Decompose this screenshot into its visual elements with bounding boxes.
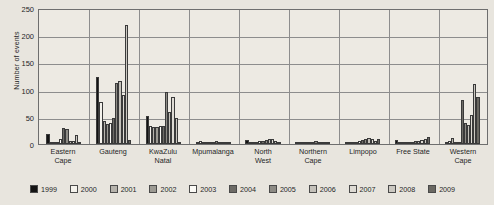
bar-group: [89, 10, 139, 144]
bar-group: [387, 10, 437, 144]
bar-set: [39, 10, 89, 144]
bar-group: [338, 10, 388, 144]
legend-swatch-icon: [70, 185, 78, 193]
legend-item-2001[interactable]: 2001: [110, 185, 150, 194]
legend-item-2007[interactable]: 2007: [349, 185, 389, 194]
legend-label: 2009: [439, 185, 455, 194]
x-label-gauteng: Gauteng: [88, 147, 138, 173]
legend-swatch-icon: [349, 185, 357, 193]
y-tick-100: 100: [8, 88, 34, 96]
bar-group: [188, 10, 238, 144]
bar: [128, 140, 131, 144]
legend-swatch-icon: [110, 185, 118, 193]
legend-swatch-icon: [30, 185, 38, 193]
y-tick-200: 200: [8, 33, 34, 41]
legend-label: 2000: [81, 185, 97, 194]
x-label-free-state: Free State: [388, 147, 438, 173]
legend: 1999200020012002200320042005200620072008…: [30, 182, 468, 196]
bar: [277, 142, 280, 144]
bar-group: [437, 10, 487, 144]
legend-label: 2003: [200, 185, 216, 194]
y-axis-ticks: 050100150200250: [8, 6, 34, 148]
legend-item-2009[interactable]: 2009: [428, 185, 468, 194]
x-label-eastern-cape: EasternCape: [38, 147, 88, 173]
legend-item-2008[interactable]: 2008: [388, 185, 428, 194]
bar-set: [139, 10, 189, 144]
y-tick-250: 250: [8, 6, 34, 14]
legend-swatch-icon: [229, 185, 237, 193]
plot-area: [38, 9, 488, 145]
legend-label: 2002: [160, 185, 176, 194]
bar-set: [437, 10, 487, 144]
bar-group: [139, 10, 189, 144]
legend-label: 2007: [360, 185, 376, 194]
y-tick-50: 50: [8, 115, 34, 123]
legend-swatch-icon: [149, 185, 157, 193]
x-label-kwazulu-natal: KwaZuluNatal: [138, 147, 188, 173]
x-label-north-west: NorthWest: [238, 147, 288, 173]
legend-swatch-icon: [428, 185, 436, 193]
bar-set: [288, 10, 338, 144]
bar: [427, 137, 430, 144]
legend-label: 2008: [399, 185, 415, 194]
bar-set: [188, 10, 238, 144]
legend-swatch-icon: [189, 185, 197, 193]
bar-set: [387, 10, 437, 144]
bar-set: [238, 10, 288, 144]
legend-item-2005[interactable]: 2005: [269, 185, 309, 194]
legend-label: 2001: [121, 185, 137, 194]
bar: [178, 142, 181, 144]
legend-label: 1999: [41, 185, 57, 194]
x-label-mpumalanga: Mpumalanga: [188, 147, 238, 173]
x-label-northern-cape: NorthernCape: [288, 147, 338, 173]
x-label-limpopo: Limpopo: [338, 147, 388, 173]
bar: [228, 142, 231, 144]
bar-set: [89, 10, 139, 144]
legend-label: 2004: [240, 185, 256, 194]
bar-group: [288, 10, 338, 144]
chart-container: Number of events 050100150200250 Eastern…: [0, 0, 494, 205]
bar-groups: [39, 10, 487, 144]
legend-item-2004[interactable]: 2004: [229, 185, 269, 194]
y-tick-150: 150: [8, 60, 34, 68]
legend-swatch-icon: [388, 185, 396, 193]
y-tick-0: 0: [8, 142, 34, 150]
legend-item-2003[interactable]: 2003: [189, 185, 229, 194]
x-label-western-cape: WesternCape: [438, 147, 488, 173]
bar: [377, 139, 380, 144]
bar: [125, 25, 128, 144]
legend-swatch-icon: [269, 185, 277, 193]
legend-label: 2005: [280, 185, 296, 194]
bar: [78, 142, 81, 144]
x-axis-labels: EasternCapeGautengKwaZuluNatalMpumalanga…: [38, 147, 488, 173]
bar: [175, 118, 178, 144]
legend-item-2000[interactable]: 2000: [70, 185, 110, 194]
legend-label: 2006: [320, 185, 336, 194]
bar: [476, 97, 479, 144]
bar: [327, 142, 330, 144]
legend-item-1999[interactable]: 1999: [30, 185, 70, 194]
bar-group: [238, 10, 288, 144]
bar-set: [338, 10, 388, 144]
legend-swatch-icon: [309, 185, 317, 193]
legend-item-2006[interactable]: 2006: [309, 185, 349, 194]
legend-item-2002[interactable]: 2002: [149, 185, 189, 194]
bar-group: [39, 10, 89, 144]
